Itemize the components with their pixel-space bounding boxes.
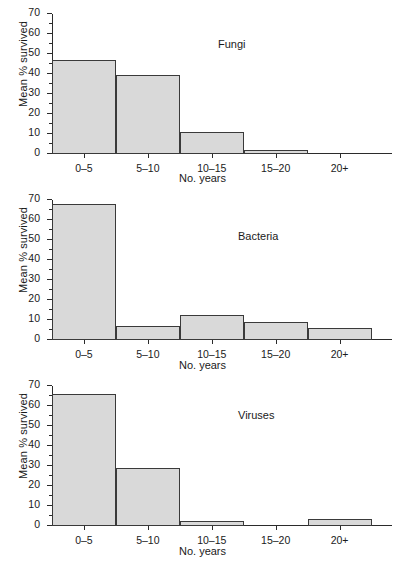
y-axis-tick-label: 40 (28, 252, 40, 265)
histogram-bar (180, 132, 244, 154)
y-axis-tick-label: 0 (34, 518, 40, 531)
y-axis-title: Mean % survived (17, 0, 29, 129)
y-axis-tick-label: 10 (28, 312, 40, 325)
x-axis-tick (340, 154, 341, 158)
x-axis-tick (340, 526, 341, 530)
x-axis-tick (276, 526, 277, 530)
histogram-bar (308, 328, 372, 340)
histogram-bar (244, 322, 308, 340)
y-axis-tick-label: 50 (28, 418, 40, 431)
y-axis-tick-label: 10 (28, 498, 40, 511)
plot-area: 0102030405060700–55–1010–1515–2020+ (52, 200, 392, 340)
y-axis-tick: 70 (47, 13, 52, 14)
x-axis-title: No. years (0, 359, 405, 371)
x-axis-tick (84, 154, 85, 158)
x-axis-tick (276, 340, 277, 344)
x-axis-tick (84, 526, 85, 530)
histogram-bar (308, 519, 372, 526)
panel-title: Bacteria (238, 230, 278, 242)
figure-survival-histograms: Mean % survived 0102030405060700–55–1010… (0, 0, 405, 562)
y-axis-title: Mean % survived (17, 371, 29, 501)
y-axis-tick-label: 60 (28, 398, 40, 411)
y-axis-tick-label: 40 (28, 66, 40, 79)
y-axis-title: Mean % survived (17, 185, 29, 315)
y-axis-tick: 70 (47, 385, 52, 386)
x-axis-tick (340, 340, 341, 344)
x-axis-tick (148, 340, 149, 344)
y-axis-tick-label: 10 (28, 126, 40, 139)
y-axis-tick: 50 (47, 53, 52, 54)
y-axis-minor-tick (49, 43, 52, 44)
x-axis-title: No. years (0, 545, 405, 557)
y-axis-tick-label: 50 (28, 46, 40, 59)
x-axis-tick (148, 526, 149, 530)
y-axis-tick: 60 (47, 33, 52, 34)
x-axis-title: No. years (0, 172, 405, 184)
chart-panel-bacteria: Mean % survived 0102030405060700–55–1010… (0, 188, 405, 373)
histogram-bar (116, 75, 180, 154)
y-axis-minor-tick (49, 23, 52, 24)
chart-panel-viruses: Mean % survived 0102030405060700–55–1010… (0, 374, 405, 559)
panel-title: Viruses (238, 409, 274, 421)
y-axis-tick-label: 70 (28, 192, 40, 205)
plot-area: 0102030405060700–55–1010–1515–2020+ (52, 386, 392, 526)
y-axis-tick-label: 60 (28, 26, 40, 39)
histogram-bar (116, 326, 180, 340)
y-axis-tick-label: 30 (28, 86, 40, 99)
plot-area: 0102030405060700–55–1010–1515–2020+ (52, 14, 392, 154)
y-axis-tick-label: 60 (28, 212, 40, 225)
histogram-bar (180, 315, 244, 340)
y-axis-tick: 70 (47, 199, 52, 200)
x-axis-tick (148, 154, 149, 158)
y-axis-tick-label: 30 (28, 272, 40, 285)
x-axis-tick (212, 340, 213, 344)
x-axis-tick (84, 340, 85, 344)
y-axis-tick-label: 50 (28, 232, 40, 245)
y-axis-tick-label: 20 (28, 292, 40, 305)
histogram-bar (116, 468, 180, 526)
y-axis-tick-label: 40 (28, 438, 40, 451)
chart-panel-fungi: Mean % survived 0102030405060700–55–1010… (0, 2, 405, 187)
panel-title: Fungi (218, 38, 246, 50)
y-axis-tick-label: 0 (34, 146, 40, 159)
y-axis-tick-label: 70 (28, 378, 40, 391)
y-axis-tick-label: 70 (28, 6, 40, 19)
histogram-bar (52, 204, 116, 340)
x-axis-tick (276, 154, 277, 158)
x-axis-tick (212, 154, 213, 158)
x-axis-tick (212, 526, 213, 530)
y-axis-tick-label: 20 (28, 106, 40, 119)
y-axis-tick-label: 30 (28, 458, 40, 471)
histogram-bar (52, 60, 116, 154)
y-axis-tick-label: 20 (28, 478, 40, 491)
y-axis-tick-label: 0 (34, 332, 40, 345)
histogram-bar (52, 394, 116, 526)
